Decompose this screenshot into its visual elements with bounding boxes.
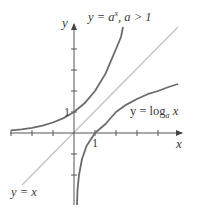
- function-graph: y x 1 1 y = ax, a > 1 y = loga x y = x: [0, 0, 197, 211]
- exp-label-condition: , a > 1: [118, 10, 151, 24]
- x-axis-label: x: [175, 136, 182, 151]
- log-label-argument: x: [170, 104, 179, 118]
- identity-label: y = x: [9, 185, 37, 199]
- exp-label-lhs: y =: [86, 10, 108, 24]
- logarithm-label: y = loga x: [130, 104, 179, 120]
- exponential-label: y = ax, a > 1: [86, 9, 151, 24]
- log-label-lhs: y = log: [130, 104, 166, 118]
- y-tick-label-one: 1: [64, 105, 70, 119]
- y-axis-label: y: [60, 15, 68, 30]
- x-tick-label-one: 1: [92, 136, 98, 150]
